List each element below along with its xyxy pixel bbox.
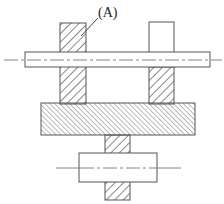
right-column-lower <box>149 67 174 104</box>
right-column-upper <box>149 22 174 53</box>
mechanical-diagram: (A) <box>0 0 224 204</box>
label-a: (A) <box>98 5 118 21</box>
upper-shaft <box>25 52 210 67</box>
lower-shaft <box>79 153 157 182</box>
base-plate <box>41 103 195 135</box>
